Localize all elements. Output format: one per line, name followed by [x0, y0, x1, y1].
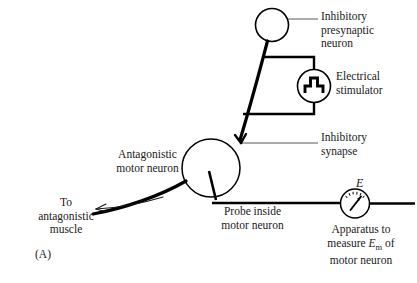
apparatus-line-1: Apparatus to — [331, 223, 390, 235]
label-to-antagonistic-muscle: To antagonistic muscle — [24, 196, 108, 237]
apparatus-line-3: motor neuron — [330, 254, 392, 266]
inhibitory-presynaptic-neuron-soma — [256, 9, 289, 42]
electrical-stimulator-body — [298, 70, 331, 103]
label-antagonistic-motor-neuron: Antagonistic motor neuron — [95, 148, 200, 175]
label-inhibitory-synapse: Inhibitory synapse — [321, 131, 367, 158]
apparatus-line-2-suffix: of — [382, 237, 394, 249]
figure-panel-a: Inhibitory presynaptic neuron Electrical… — [0, 0, 417, 283]
apparatus-em-variable: E — [369, 237, 376, 249]
label-inhibitory-presynaptic-neuron: Inhibitory presynaptic neuron — [321, 10, 374, 51]
label-probe-inside-motor-neuron: Probe inside motor neuron — [200, 205, 305, 232]
label-apparatus-to-measure-em: Apparatus tomeasure Em ofmotor neuron — [311, 223, 411, 268]
apparatus-line-2-prefix: measure — [327, 237, 368, 249]
label-electrical-stimulator: Electrical stimulator — [336, 70, 383, 97]
label-meter-symbol-e: E — [356, 177, 363, 191]
panel-label: (A) — [35, 248, 51, 262]
